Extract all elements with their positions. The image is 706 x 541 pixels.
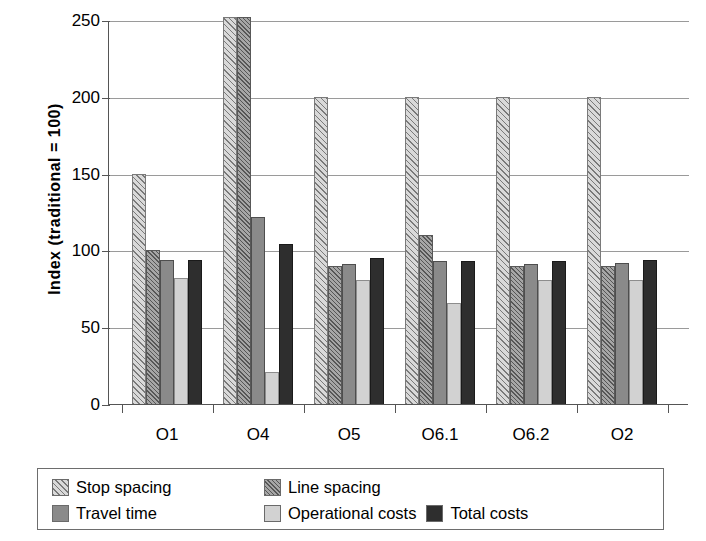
y-axis-tick-label: 150: [72, 165, 100, 185]
operational-costs-swatch-icon: [264, 505, 281, 522]
legend-label-travel-time: Travel time: [76, 505, 157, 522]
y-axis-tick: [102, 251, 110, 252]
bar-operational-costs-o5: [356, 280, 370, 404]
bar-travel-time-o4: [251, 217, 265, 404]
y-axis-tick: [102, 405, 110, 406]
bar-operational-costs-o2: [629, 280, 643, 404]
legend-item-line-spacing: Line spacing: [264, 479, 381, 496]
x-axis-tick-label: O6.2: [513, 425, 550, 445]
legend-label-line-spacing: Line spacing: [288, 479, 381, 496]
legend-item-total-costs: Total costs: [426, 505, 528, 522]
x-axis-tick: [213, 405, 214, 413]
bar-group-o4: [223, 20, 293, 404]
bar-line-spacing-o5: [328, 266, 342, 404]
bar-line-spacing-o2: [601, 266, 615, 404]
y-axis-tick: [102, 98, 110, 99]
x-axis-tick: [395, 405, 396, 413]
legend-item-operational-costs: Operational costs: [264, 505, 416, 522]
total-costs-swatch-icon: [426, 505, 443, 522]
bar-line-spacing-o1: [146, 250, 160, 404]
bar-operational-costs-o1: [174, 278, 188, 404]
y-axis-tick-label: 250: [72, 11, 100, 31]
bar-total-costs-o4: [279, 244, 293, 404]
y-axis-tick-label: 100: [72, 241, 100, 261]
bar-travel-time-o6-2: [524, 264, 538, 404]
stop-spacing-swatch-icon: [52, 479, 69, 496]
bar-travel-time-o5: [342, 264, 356, 404]
bar-travel-time-o1: [160, 260, 174, 404]
bar-group-o6-1: [405, 20, 475, 404]
plot-area: 050100150200250 O1O4O5O6.1O6.2O2: [108, 21, 688, 405]
bar-stop-spacing-o6-1: [405, 97, 419, 404]
bar-line-spacing-o6-1: [419, 235, 433, 404]
y-axis-tick: [102, 21, 110, 22]
bar-stop-spacing-o2: [587, 97, 601, 404]
legend-item-travel-time: Travel time: [52, 505, 264, 522]
bar-travel-time-o2: [615, 263, 629, 404]
x-axis-tick: [577, 405, 578, 413]
legend-label-total-costs: Total costs: [450, 505, 528, 522]
x-axis-tick: [304, 405, 305, 413]
bar-total-costs-o6-2: [552, 261, 566, 404]
legend-row-1: Stop spacing Line spacing: [38, 474, 663, 500]
y-axis-title: Index (traditional = 100): [46, 4, 64, 394]
x-axis-tick-label: O6.1: [422, 425, 459, 445]
x-axis-tick: [122, 405, 123, 413]
bar-operational-costs-o4: [265, 372, 279, 404]
x-axis-tick: [668, 405, 669, 413]
legend-row-2: Travel time Operational costs Total cost…: [38, 500, 663, 526]
bar-total-costs-o6-1: [461, 261, 475, 404]
bar-total-costs-o1: [188, 260, 202, 404]
y-axis-tick-label: 200: [72, 88, 100, 108]
legend-item-stop-spacing: Stop spacing: [52, 479, 264, 496]
bar-group-o6-2: [496, 20, 566, 404]
bar-line-spacing-o4: [237, 17, 251, 404]
bar-operational-costs-o6-2: [538, 280, 552, 404]
x-axis-tick-label: O4: [247, 425, 270, 445]
y-axis-tick: [102, 328, 110, 329]
bar-group-o2: [587, 20, 657, 404]
x-axis-tick-label: O1: [156, 425, 179, 445]
x-axis-tick-label: O5: [338, 425, 361, 445]
bar-total-costs-o5: [370, 258, 384, 404]
bar-line-spacing-o6-2: [510, 266, 524, 404]
bar-stop-spacing-o1: [132, 174, 146, 404]
x-axis-tick: [486, 405, 487, 413]
bar-stop-spacing-o6-2: [496, 97, 510, 404]
bar-chart-figure: Index (traditional = 100) 05010015020025…: [0, 0, 706, 541]
y-axis-tick-label: 0: [91, 395, 100, 415]
bar-group-o1: [132, 20, 202, 404]
legend-label-operational-costs: Operational costs: [288, 505, 416, 522]
travel-time-swatch-icon: [52, 505, 69, 522]
y-axis-tick-label: 50: [81, 318, 100, 338]
bar-travel-time-o6-1: [433, 261, 447, 404]
bar-total-costs-o2: [643, 260, 657, 404]
y-axis-tick: [102, 175, 110, 176]
bar-operational-costs-o6-1: [447, 303, 461, 404]
x-axis-tick-label: O2: [611, 425, 634, 445]
bar-stop-spacing-o4: [223, 17, 237, 404]
line-spacing-swatch-icon: [264, 479, 281, 496]
chart-legend: Stop spacing Line spacing Travel time Op…: [37, 468, 664, 530]
bar-group-o5: [314, 20, 384, 404]
legend-label-stop-spacing: Stop spacing: [76, 479, 171, 496]
bar-stop-spacing-o5: [314, 97, 328, 404]
